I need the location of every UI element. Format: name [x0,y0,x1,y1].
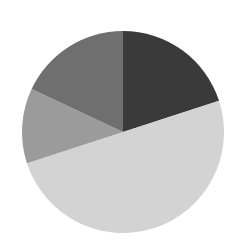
pie-chart [0,0,238,249]
